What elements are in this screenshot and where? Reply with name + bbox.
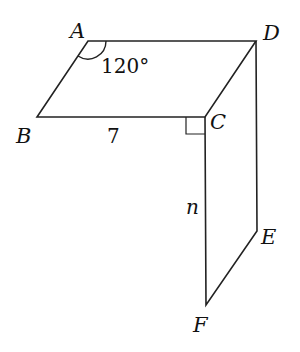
vertex-label-a: A — [68, 19, 85, 43]
side-label-bc: 7 — [107, 124, 120, 148]
vertex-label-c: C — [210, 110, 226, 134]
right-angle-marker-c — [186, 117, 205, 134]
quadrilateral-cdef — [205, 41, 257, 305]
angle-label-a: 120° — [101, 54, 149, 78]
vertex-label-b: B — [15, 124, 31, 148]
diagram-svg: A D B C E F 120° 7 n — [0, 0, 300, 352]
parallelogram-abcd — [37, 41, 256, 117]
vertex-label-e: E — [260, 225, 276, 249]
geometry-diagram: A D B C E F 120° 7 n — [0, 0, 300, 352]
vertex-label-f: F — [192, 313, 209, 337]
vertex-label-d: D — [262, 21, 280, 45]
side-label-cf: n — [186, 195, 199, 219]
